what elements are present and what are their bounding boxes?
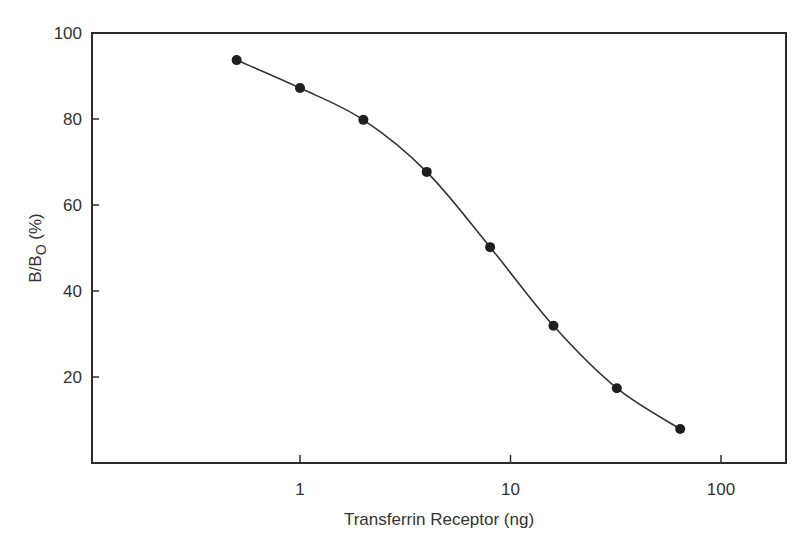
data-point — [358, 115, 368, 125]
data-point — [485, 242, 495, 252]
data-point — [675, 424, 685, 434]
data-point — [295, 83, 305, 93]
data-point — [612, 383, 622, 393]
y-axis-title: B/BO (%) — [26, 213, 49, 282]
plot-frame — [92, 33, 786, 463]
x-tick-label: 10 — [501, 480, 520, 499]
y-axis-title-subscript: O — [33, 244, 49, 255]
data-point — [548, 321, 558, 331]
x-tick-label: 1 — [295, 480, 304, 499]
y-tick-label: 80 — [63, 110, 82, 129]
y-axis-title-main: B/B — [26, 255, 45, 282]
standard-curve-chart: 20406080100 110100 Transferrin Receptor … — [0, 0, 809, 545]
x-axis-title: Transferrin Receptor (ng) — [344, 510, 534, 529]
x-axis: 110100 — [295, 455, 735, 499]
y-tick-label: 100 — [54, 24, 82, 43]
y-tick-label: 40 — [63, 282, 82, 301]
data-point — [422, 167, 432, 177]
y-tick-label: 60 — [63, 196, 82, 215]
data-point — [232, 55, 242, 65]
y-axis-title-suffix: (%) — [26, 213, 45, 244]
plot-border — [92, 33, 786, 463]
fit-curve — [237, 60, 681, 429]
x-tick-label: 100 — [707, 480, 735, 499]
data-points — [232, 55, 686, 434]
y-tick-label: 20 — [63, 368, 82, 387]
